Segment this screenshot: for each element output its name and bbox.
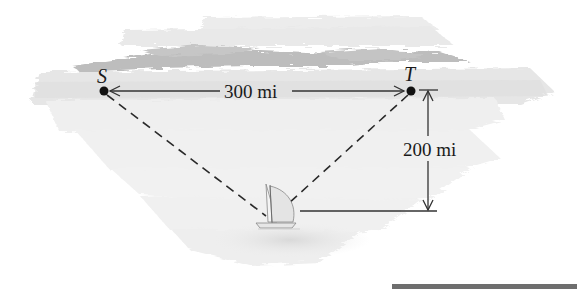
horizon-band xyxy=(35,80,548,98)
diagram-canvas xyxy=(0,0,577,290)
point-t-label: T xyxy=(404,64,415,84)
page-divider-bar xyxy=(392,284,577,289)
point-t-dot xyxy=(407,87,416,96)
distance-label-200: 200 mi xyxy=(403,140,456,159)
distance-label-300: 300 mi xyxy=(224,82,277,101)
point-s-dot xyxy=(100,87,109,96)
point-s-label: S xyxy=(97,66,107,86)
